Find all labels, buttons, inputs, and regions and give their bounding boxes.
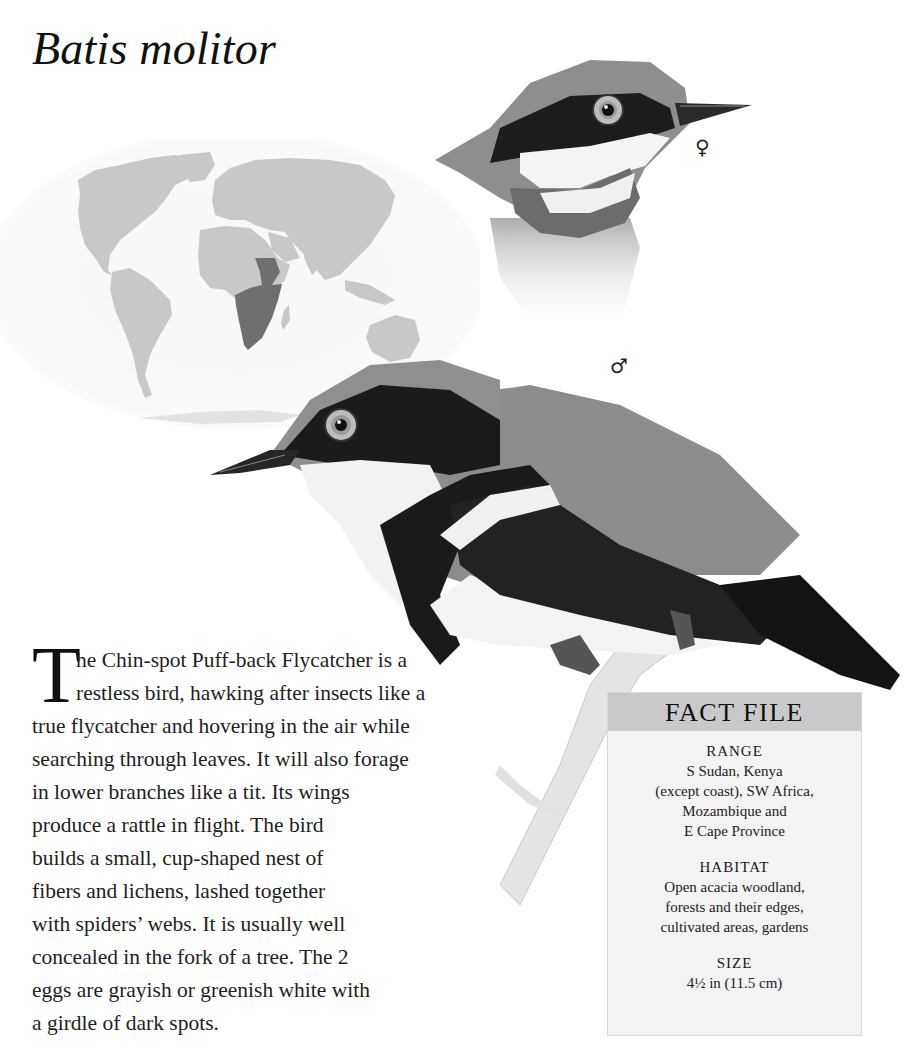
fact-value-line: cultivated areas, gardens	[608, 917, 861, 937]
male-symbol-icon: ♂	[610, 356, 628, 376]
fact-label: RANGE	[608, 741, 861, 761]
body-line: a girdle of dark spots.	[32, 1007, 452, 1040]
fact-value-line: 4½ in (11.5 cm)	[608, 973, 861, 993]
body-line: in lower branches like a tit. Its wings	[32, 776, 452, 809]
fact-value-line: (except coast), SW Africa,	[608, 781, 861, 801]
fact-file-box: FACT FILE RANGE S Sudan, Kenya (except c…	[607, 692, 862, 1036]
body-line: searching through leaves. It will also f…	[32, 743, 452, 776]
fact-value-line: Mozambique and	[608, 801, 861, 821]
body-line: true flycatcher and hovering in the air …	[32, 710, 452, 743]
fact-value-line: S Sudan, Kenya	[608, 761, 861, 781]
fact-value-line: E Cape Province	[608, 821, 861, 841]
fact-value: S Sudan, Kenya (except coast), SW Africa…	[608, 761, 861, 841]
fact-section-habitat: HABITAT Open acacia woodland, forests an…	[608, 857, 861, 937]
body-line: with spiders’ webs. It is usually well	[32, 908, 452, 941]
body-line: produce a rattle in flight. The bird	[32, 809, 452, 842]
fact-value: Open acacia woodland, forests and their …	[608, 877, 861, 937]
fact-section-range: RANGE S Sudan, Kenya (except coast), SW …	[608, 741, 861, 841]
species-title: Batis molitor	[32, 22, 276, 75]
fact-file-header: FACT FILE	[608, 693, 861, 731]
body-line: builds a small, cup-shaped nest of	[32, 842, 452, 875]
body-line: eggs are grayish or greenish white with	[32, 974, 452, 1007]
female-bird-illustration	[430, 48, 760, 338]
body-line: fibers and lichens, lashed together	[32, 875, 452, 908]
fact-value-line: forests and their edges,	[608, 897, 861, 917]
body-line: concealed in the fork of a tree. The 2	[32, 941, 452, 974]
body-line: restless bird, hawking after insects lik…	[32, 677, 452, 710]
fact-label: HABITAT	[608, 857, 861, 877]
fact-section-size: SIZE 4½ in (11.5 cm)	[608, 953, 861, 993]
female-symbol-icon: ♀	[695, 137, 710, 157]
fact-label: SIZE	[608, 953, 861, 973]
body-line: he Chin-spot Puff-back Flycatcher is a	[32, 644, 452, 677]
body-paragraph: he Chin-spot Puff-back Flycatcher is a r…	[32, 644, 452, 1040]
fact-value-line: Open acacia woodland,	[608, 877, 861, 897]
fact-value: 4½ in (11.5 cm)	[608, 973, 861, 993]
